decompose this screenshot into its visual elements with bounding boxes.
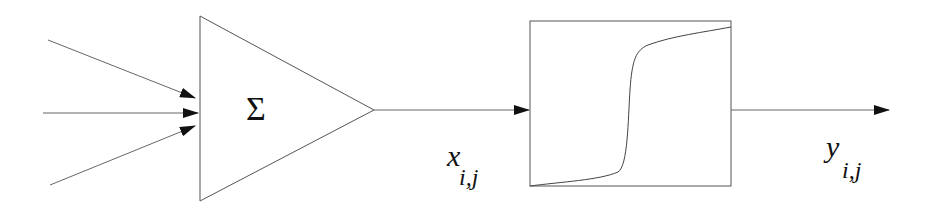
y-label-base: y [823,130,840,163]
neuron-diagram: Σ x i,j y i,j [0,0,931,203]
sigma-symbol: Σ [246,90,266,127]
input-arrow-1 [48,40,195,98]
x-label-sub: i,j [459,164,479,190]
input-arrow-3 [50,126,195,185]
summation-node [200,16,374,201]
activation-node [530,21,731,186]
y-label-sub: i,j [842,157,862,183]
